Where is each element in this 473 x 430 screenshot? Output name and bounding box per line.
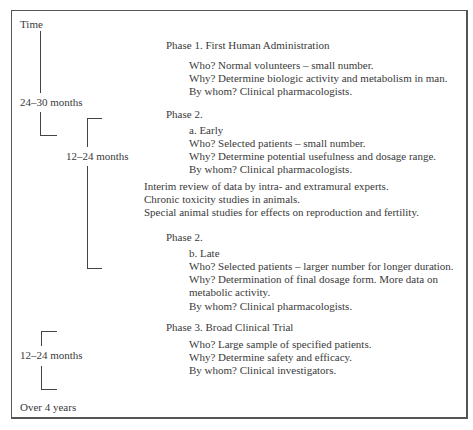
phase2-late-why-2: metabolic activity. — [189, 286, 270, 299]
time-start-label: Time — [20, 18, 43, 31]
phase2-early-sub: a. Early — [189, 124, 223, 137]
phase3-bracket-end — [41, 389, 57, 390]
phase2-late-title: Phase 2. — [166, 231, 203, 244]
phase2-bracket-bottom — [87, 166, 88, 268]
phase1-why: Why? Determine biologic activity and met… — [189, 72, 447, 85]
time-end-label: Over 4 years — [20, 401, 76, 414]
phase1-by-whom: By whom? Clinical pharmacologists. — [189, 85, 352, 98]
phase3-why: Why? Determine safety and efficacy. — [189, 351, 352, 364]
phase3-bracket-bottom — [41, 366, 42, 389]
phase2-late-sub: b. Late — [189, 247, 220, 260]
phase3-by-whom: By whom? Clinical investigators. — [189, 364, 336, 377]
phase3-bracket-top — [41, 331, 42, 346]
phase1-bracket-end — [40, 135, 57, 136]
phase3-title: Phase 3. Broad Clinical Trial — [166, 321, 293, 334]
phase1-who: Who? Normal volunteers – small number. — [189, 59, 374, 72]
phase2-bracket-end — [87, 268, 102, 269]
phase1-bracket-bottom — [40, 112, 41, 135]
phase2-early-by-whom: By whom? Clinical pharmacologists. — [189, 163, 352, 176]
phase2-duration-label: 12–24 months — [66, 150, 129, 163]
phase2-late-why-1: Why? Determination of final dosage form.… — [189, 273, 438, 286]
interim-line-1: Interim review of data by intra- and ext… — [144, 180, 389, 193]
interim-line-2: Chronic toxicity studies in animals. — [144, 193, 300, 206]
phase3-bracket-start — [41, 331, 57, 332]
phase2-early-who: Who? Selected patients – small number. — [189, 137, 366, 150]
phase3-who: Who? Large sample of specified patients. — [189, 338, 371, 351]
phase2-bracket-start — [87, 118, 102, 119]
phase1-title: Phase 1. First Human Administration — [166, 39, 329, 52]
phase2-early-why: Why? Determine potential usefulness and … — [189, 150, 436, 163]
phase2-bracket-top — [87, 118, 88, 147]
phase1-bracket-top — [40, 31, 41, 93]
phase2-early-title: Phase 2. — [166, 108, 203, 121]
phase1-duration-label: 24–30 months — [20, 96, 83, 109]
phase2-late-by-whom: By whom? Clinical pharmacologists. — [189, 300, 352, 313]
interim-line-3: Special animal studies for effects on re… — [144, 206, 419, 219]
phase2-late-who: Who? Selected patients – larger number f… — [189, 260, 454, 273]
phase3-duration-label: 12–24 months — [20, 349, 83, 362]
